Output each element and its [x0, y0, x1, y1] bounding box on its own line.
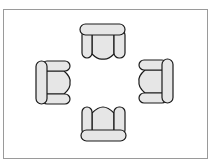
armchair-right-backrest [162, 59, 173, 103]
armchair-bottom [81, 107, 126, 141]
armchair-bottom-backrest [81, 130, 126, 141]
armchair-right-seat [139, 70, 163, 93]
armchair-left-backrest [36, 61, 47, 104]
armchair-left [36, 61, 70, 104]
seating-layout-diagram [0, 0, 211, 168]
armchair-top-backrest [80, 24, 125, 35]
armchair-top-seat [92, 34, 114, 59]
armchair-right [139, 59, 173, 103]
armchair-bottom-seat [92, 107, 114, 133]
armchair-left-seat [46, 71, 70, 94]
armchair-top [80, 24, 125, 59]
